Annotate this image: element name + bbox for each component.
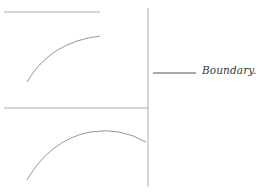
- upper-arc: [27, 36, 100, 82]
- lower-arc: [27, 131, 146, 180]
- legend-boundary-label: Boundary.: [202, 64, 256, 76]
- boundary-diagram: [0, 0, 269, 195]
